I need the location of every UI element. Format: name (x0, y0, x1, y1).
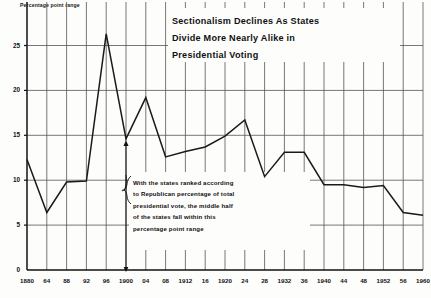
chart-figure: Percentage point range Sectionalism Decl… (0, 0, 431, 298)
annotation-pointer (122, 140, 131, 272)
x-tick-label-1936: 36 (301, 277, 308, 284)
y-tick-label-0: 0 (4, 266, 20, 273)
x-tick-label-1948: 48 (360, 277, 367, 284)
x-tick-label-1920: 1920 (218, 277, 232, 284)
x-tick-label-1956: 56 (400, 277, 407, 284)
annotation-arrowhead (123, 140, 128, 146)
chart-canvas (0, 0, 431, 298)
x-tick-label-1960: 1960 (416, 277, 430, 284)
x-tick-label-1892: 92 (83, 277, 90, 284)
x-tick-label-1896: 96 (103, 277, 110, 284)
x-tick-label-1928: 28 (261, 277, 268, 284)
y-tick-label-15: 15 (4, 131, 20, 138)
x-tick-label-1908: 08 (162, 277, 169, 284)
y-tick-label-10: 10 (4, 176, 20, 183)
axes (24, 2, 423, 270)
y-tick-label-25: 25 (4, 42, 20, 49)
x-tick-label-1912: 1912 (179, 277, 193, 284)
x-tick-label-1940: 1940 (317, 277, 331, 284)
x-tick-label-1952: 1952 (377, 277, 391, 284)
x-tick-label-1932: 1932 (278, 277, 292, 284)
x-tick-label-1916: 16 (202, 277, 209, 284)
y-tick-label-20: 20 (4, 86, 20, 93)
x-tick-label-1884: 64 (43, 277, 50, 284)
x-tick-label-1924: 24 (241, 277, 248, 284)
x-tick-label-1944: 44 (340, 277, 347, 284)
x-tick-label-1880: 1880 (20, 277, 34, 284)
y-tick-label-5: 5 (4, 221, 20, 228)
x-tick-label-1904: 04 (142, 277, 149, 284)
x-tick-label-1888: 88 (63, 277, 70, 284)
x-tick-label-1900: 1900 (119, 277, 133, 284)
